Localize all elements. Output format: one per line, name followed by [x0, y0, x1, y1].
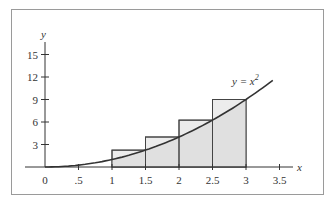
x-axis-label: x [296, 161, 302, 173]
x-tick-label: .5 [74, 174, 83, 186]
riemann-sum-chart: 0.511.522.533.5 3691215 x y y = x2 [0, 0, 333, 206]
x-tick-label: 2 [176, 174, 182, 186]
y-tick-label: 6 [33, 116, 39, 128]
x-tick-label: 0 [42, 174, 48, 186]
y-tick-label: 15 [27, 49, 39, 61]
curve-label: y = x2 [231, 73, 259, 87]
y-axis-ticks: 3691215 [27, 49, 49, 151]
x-tick-label: 2.5 [206, 174, 220, 186]
y-tick-label: 12 [27, 71, 38, 83]
x-tick-label: 1 [109, 174, 115, 186]
y-tick-label: 3 [33, 139, 39, 151]
x-tick-label: 3 [243, 174, 249, 186]
upper-sum-rectangles [112, 100, 246, 168]
x-tick-label: 1.5 [139, 174, 153, 186]
x-tick-label: 3.5 [273, 174, 287, 186]
y-axis-label: y [40, 28, 46, 40]
y-tick-label: 9 [33, 94, 39, 106]
